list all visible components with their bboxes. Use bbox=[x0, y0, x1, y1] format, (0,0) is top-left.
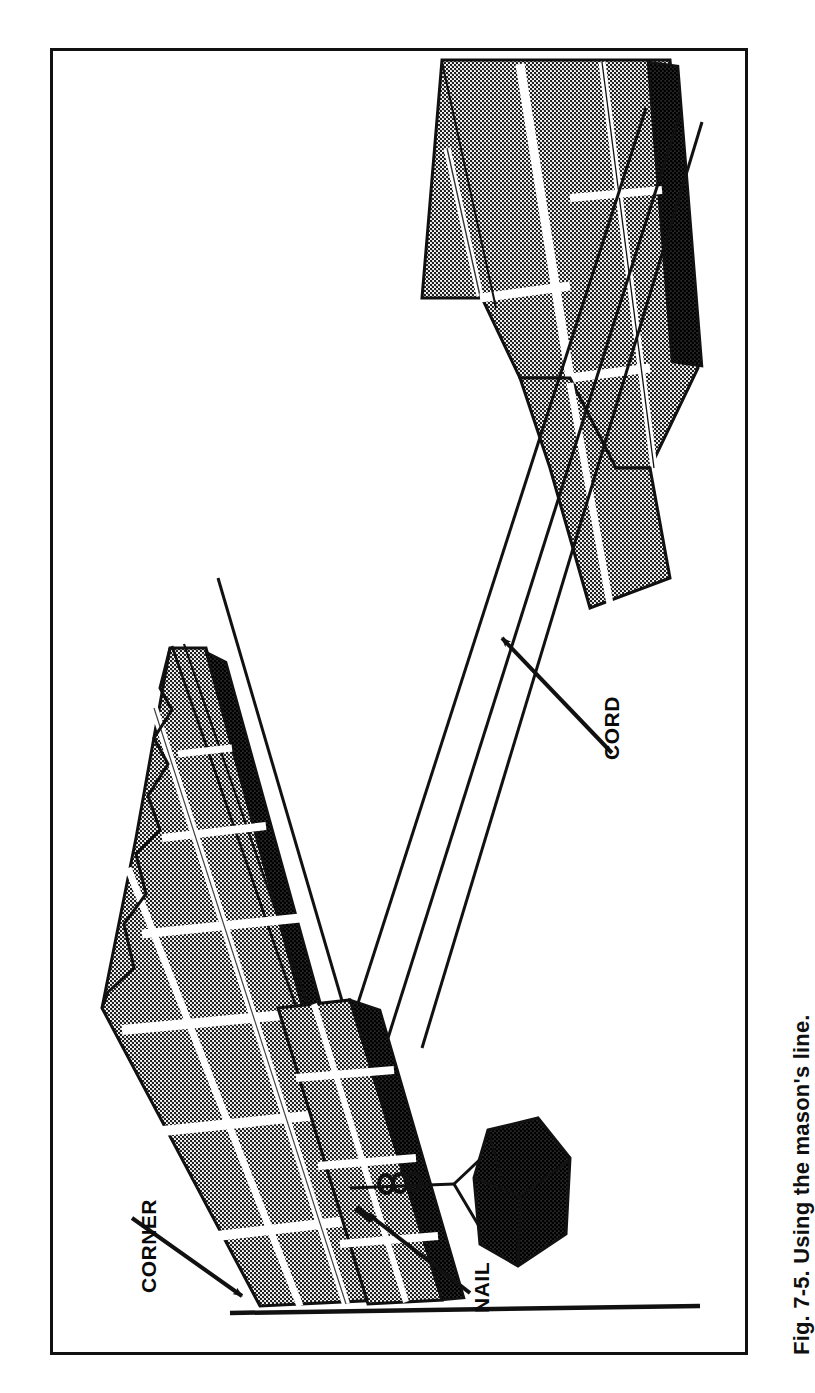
anchor-brick-edge-2 bbox=[518, 1196, 520, 1266]
ground-line-group bbox=[230, 1306, 700, 1313]
anchor-brick-weight bbox=[474, 1118, 570, 1266]
label-nail: NAIL bbox=[470, 1262, 494, 1313]
label-cord: CORD bbox=[600, 696, 624, 760]
far-brick-course bbox=[422, 60, 702, 608]
label-corner: CORNER bbox=[137, 1199, 161, 1293]
masons-line-illustration bbox=[50, 48, 748, 1355]
cord-leader-arrow bbox=[502, 638, 612, 753]
ground-line bbox=[230, 1306, 700, 1313]
figure-caption: Fig. 7-5. Using the mason's line. bbox=[789, 1014, 815, 1355]
